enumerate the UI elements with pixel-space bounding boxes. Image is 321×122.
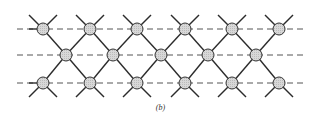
lattice-node xyxy=(179,77,191,89)
lattice-node xyxy=(273,23,285,35)
figure-caption: (b) xyxy=(0,103,321,112)
lattice-node xyxy=(131,23,143,35)
lattice-node xyxy=(37,77,49,89)
lattice-node xyxy=(273,77,285,89)
lattice-node xyxy=(60,49,72,61)
lattice-node xyxy=(202,49,214,61)
lattice-node xyxy=(179,23,191,35)
lattice-node xyxy=(131,77,143,89)
lattice-nodes xyxy=(37,23,285,89)
lattice-node xyxy=(37,23,49,35)
lattice-node xyxy=(226,23,238,35)
lattice-node xyxy=(84,23,96,35)
lattice-node xyxy=(155,49,167,61)
lattice-node xyxy=(107,49,119,61)
lattice-node xyxy=(84,77,96,89)
lattice-node xyxy=(250,49,262,61)
lattice-node xyxy=(226,77,238,89)
